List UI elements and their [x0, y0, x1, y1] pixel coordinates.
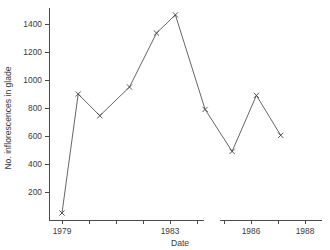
- x-axis-tick-labels: 1979198319861988: [53, 226, 315, 236]
- data-point-markers: [59, 12, 283, 215]
- x-tick-label: 1986: [242, 226, 261, 236]
- data-point-marker: [173, 12, 178, 17]
- data-point-marker: [154, 31, 159, 36]
- y-tick-label: 1400: [23, 19, 42, 29]
- chart-container: 200400600800100012001400 197919831986198…: [0, 0, 330, 250]
- y-axis-ticks: [45, 24, 49, 192]
- x-tick-label: 1988: [296, 226, 315, 236]
- y-tick-label: 1000: [23, 75, 42, 85]
- data-point-marker: [278, 133, 283, 138]
- y-tick-label: 600: [28, 131, 42, 141]
- y-axis-title: No. inflorescences in glade: [3, 66, 13, 169]
- y-tick-label: 400: [28, 159, 42, 169]
- x-tick-label: 1983: [161, 226, 180, 236]
- x-axis-title: Date: [171, 238, 189, 248]
- x-axis-ticks: [62, 220, 305, 224]
- y-tick-label: 800: [28, 103, 42, 113]
- y-axis-tick-labels: 200400600800100012001400: [23, 19, 42, 197]
- data-point-marker: [230, 149, 235, 154]
- x-tick-label: 1979: [53, 226, 72, 236]
- y-tick-label: 1200: [23, 47, 42, 57]
- data-point-marker: [203, 107, 208, 112]
- data-point-marker: [97, 113, 102, 118]
- y-tick-label: 200: [28, 187, 42, 197]
- data-point-marker: [127, 84, 132, 89]
- data-point-marker: [254, 93, 259, 98]
- line-chart: 200400600800100012001400 197919831986198…: [0, 0, 330, 250]
- data-series-line: [62, 15, 281, 213]
